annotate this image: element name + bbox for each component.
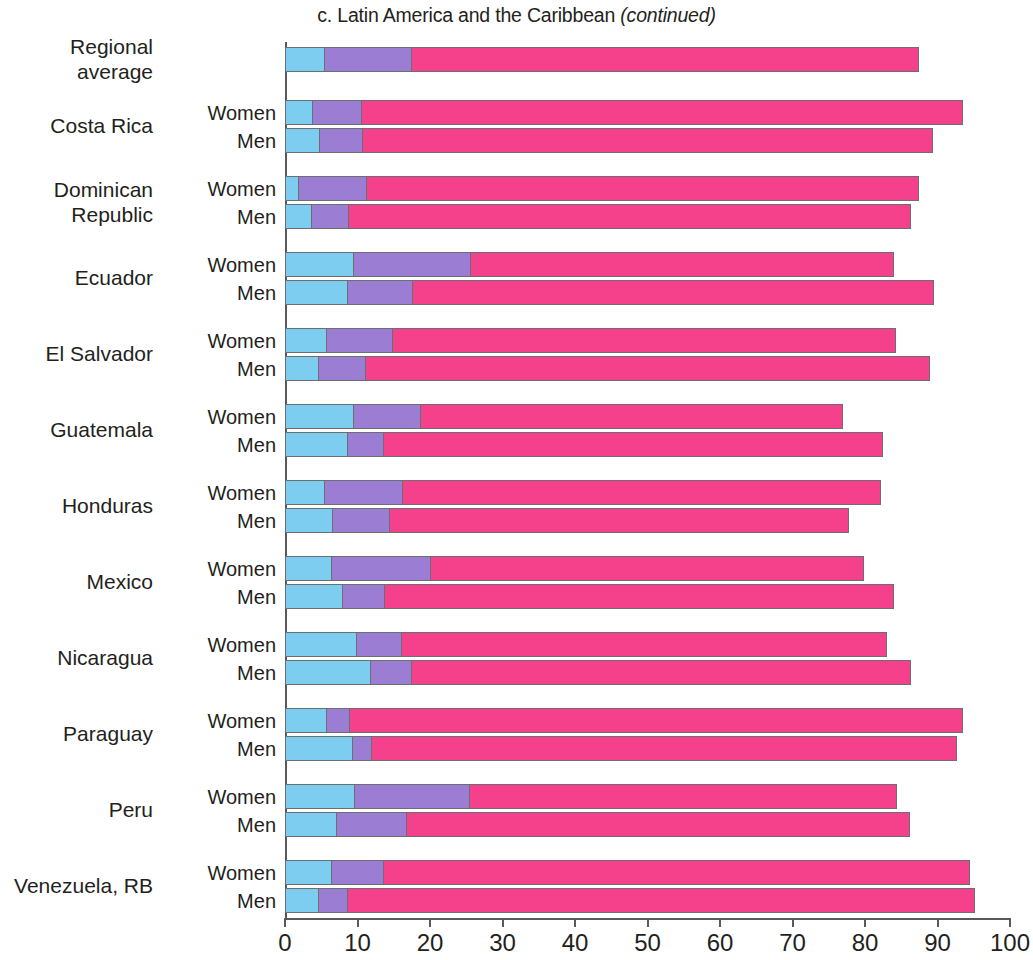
series-label-men: Men bbox=[237, 891, 276, 911]
bar-segment-3 bbox=[367, 176, 919, 201]
chart-plot-area: 0102030405060708090100 WomenMenWomenMenW… bbox=[0, 0, 1033, 960]
bar-venezuela-rb-women bbox=[285, 860, 970, 885]
bar-segment-2 bbox=[357, 632, 402, 657]
x-tick-label-80: 80 bbox=[852, 929, 879, 957]
category-label-peru: Peru bbox=[109, 797, 153, 822]
x-tick-10 bbox=[357, 918, 359, 927]
category-label-nicaragua: Nicaragua bbox=[57, 645, 153, 670]
x-tick-label-40: 40 bbox=[562, 929, 589, 957]
x-tick-70 bbox=[792, 918, 794, 927]
bar-paraguay-women bbox=[285, 708, 963, 733]
bar-segment-1 bbox=[285, 176, 299, 201]
series-label-women: Women bbox=[207, 331, 276, 351]
series-label-women: Women bbox=[207, 103, 276, 123]
x-tick-label-90: 90 bbox=[924, 929, 951, 957]
series-label-men: Men bbox=[237, 283, 276, 303]
bar-segment-3 bbox=[470, 784, 897, 809]
category-label-venezuela-rb: Venezuela, RB bbox=[14, 873, 153, 898]
bar-honduras-men bbox=[285, 508, 849, 533]
bar-mexico-women bbox=[285, 556, 864, 581]
bar-segment-2 bbox=[327, 328, 393, 353]
bar-segment-2 bbox=[313, 100, 362, 125]
bar-nicaragua-women bbox=[285, 632, 887, 657]
bar-segment-3 bbox=[390, 508, 849, 533]
bar-el-salvador-women bbox=[285, 328, 896, 353]
bar-segment-2 bbox=[333, 508, 390, 533]
series-label-women: Women bbox=[207, 179, 276, 199]
x-tick-40 bbox=[574, 918, 576, 927]
bar-segment-2 bbox=[299, 176, 367, 201]
bar-segment-1 bbox=[285, 280, 348, 305]
bar-segment-2 bbox=[332, 556, 431, 581]
series-label-women: Women bbox=[207, 407, 276, 427]
bar-segment-3 bbox=[402, 632, 887, 657]
bar-segment-2 bbox=[320, 128, 364, 153]
bar-segment-3 bbox=[431, 556, 865, 581]
bar-segment-2 bbox=[343, 584, 385, 609]
x-tick-100 bbox=[1009, 918, 1011, 927]
category-label-regional-average: Regional average bbox=[70, 34, 153, 84]
bar-segment-3 bbox=[413, 280, 934, 305]
x-tick-label-100: 100 bbox=[990, 929, 1030, 957]
bar-segment-1 bbox=[285, 632, 357, 657]
bar-venezuela-rb-men bbox=[285, 888, 975, 913]
bar-segment-2 bbox=[312, 204, 349, 229]
bar-segment-3 bbox=[350, 708, 963, 733]
bar-segment-3 bbox=[372, 736, 957, 761]
x-tick-label-50: 50 bbox=[634, 929, 661, 957]
bar-costa-rica-women bbox=[285, 100, 963, 125]
bar-segment-1 bbox=[285, 47, 325, 72]
series-label-women: Women bbox=[207, 711, 276, 731]
bar-segment-1 bbox=[285, 328, 327, 353]
bar-paraguay-men bbox=[285, 736, 957, 761]
x-tick-0 bbox=[284, 918, 286, 927]
bar-segment-1 bbox=[285, 480, 325, 505]
bar-segment-1 bbox=[285, 708, 327, 733]
x-tick-label-30: 30 bbox=[489, 929, 516, 957]
bar-mexico-men bbox=[285, 584, 894, 609]
x-tick-label-20: 20 bbox=[417, 929, 444, 957]
bar-segment-2 bbox=[332, 860, 384, 885]
bar-segment-3 bbox=[393, 328, 896, 353]
bar-guatemala-men bbox=[285, 432, 883, 457]
category-label-el-salvador: El Salvador bbox=[46, 341, 153, 366]
bar-segment-2 bbox=[348, 432, 384, 457]
category-label-mexico: Mexico bbox=[86, 569, 153, 594]
bar-segment-3 bbox=[384, 432, 883, 457]
bar-segment-1 bbox=[285, 128, 320, 153]
x-tick-60 bbox=[719, 918, 721, 927]
bar-segment-1 bbox=[285, 404, 354, 429]
bar-costa-rica-men bbox=[285, 128, 933, 153]
category-label-honduras: Honduras bbox=[62, 493, 153, 518]
series-label-men: Men bbox=[237, 587, 276, 607]
bar-segment-1 bbox=[285, 584, 343, 609]
series-label-men: Men bbox=[237, 815, 276, 835]
bar-el-salvador-men bbox=[285, 356, 930, 381]
bar-segment-3 bbox=[421, 404, 843, 429]
series-label-men: Men bbox=[237, 435, 276, 455]
x-tick-80 bbox=[864, 918, 866, 927]
bar-segment-1 bbox=[285, 784, 355, 809]
x-tick-label-70: 70 bbox=[779, 929, 806, 957]
bar-segment-2 bbox=[337, 812, 407, 837]
series-label-women: Women bbox=[207, 635, 276, 655]
bar-dominican-republic-men bbox=[285, 204, 911, 229]
x-tick-50 bbox=[647, 918, 649, 927]
bar-segment-1 bbox=[285, 204, 312, 229]
bar-nicaragua-men bbox=[285, 660, 911, 685]
bar-segment-1 bbox=[285, 888, 319, 913]
x-tick-label-0: 0 bbox=[278, 929, 291, 957]
series-label-women: Women bbox=[207, 863, 276, 883]
bar-segment-3 bbox=[471, 252, 894, 277]
category-label-costa-rica: Costa Rica bbox=[50, 113, 153, 138]
category-label-ecuador: Ecuador bbox=[75, 265, 153, 290]
series-label-men: Men bbox=[237, 739, 276, 759]
bar-segment-2 bbox=[371, 660, 412, 685]
bar-segment-3 bbox=[366, 356, 930, 381]
bar-segment-3 bbox=[403, 480, 881, 505]
bar-segment-1 bbox=[285, 100, 313, 125]
bar-segment-2 bbox=[355, 784, 470, 809]
bar-segment-1 bbox=[285, 432, 348, 457]
bar-segment-2 bbox=[319, 356, 366, 381]
bar-segment-2 bbox=[354, 404, 421, 429]
